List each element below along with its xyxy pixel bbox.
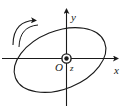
origin-label: O (55, 61, 63, 73)
rotation-arrow-inner-stroke-icon (19, 25, 38, 47)
x-axis-label: x (113, 64, 119, 76)
coordinate-diagram: y x O z (0, 0, 132, 110)
figure-container: y x O z (0, 0, 132, 110)
z-axis-label: z (69, 63, 74, 73)
z-axis-center-dot-icon (64, 56, 68, 60)
counterclockwise-rotation-arrow-icon (13, 20, 36, 45)
tilted-ellipse (5, 15, 116, 105)
y-axis-label: y (70, 11, 76, 23)
